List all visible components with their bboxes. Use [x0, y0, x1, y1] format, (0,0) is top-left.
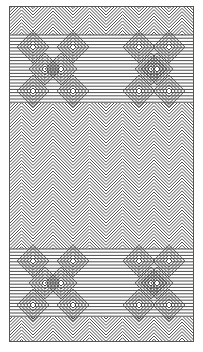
pattern-artwork — [9, 6, 194, 342]
geometric-pattern-svg — [10, 7, 194, 342]
